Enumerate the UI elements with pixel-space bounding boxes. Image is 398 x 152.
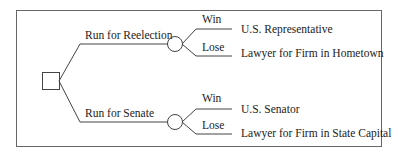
- outcome-event-win: Win: [202, 13, 222, 25]
- outcome-result-lose: Lawyer for Firm in Hometown: [241, 47, 384, 60]
- chance-node-circle: [168, 115, 183, 130]
- decision-tree-diagram: Run for Reelection Win Lose U.S. Represe…: [0, 0, 398, 152]
- outcome-event-lose: Lose: [202, 119, 224, 131]
- branch-run-for-senate: Run for Senate Win Lose U.S. Senator Law…: [59, 81, 391, 140]
- outcome-result-win: U.S. Representative: [241, 23, 333, 36]
- outcome-result-win: U.S. Senator: [241, 103, 300, 115]
- outcome-event-win: Win: [202, 92, 222, 104]
- outcome-event-lose: Lose: [202, 41, 224, 53]
- outcome-result-lose: Lawyer for Firm in State Capital: [241, 127, 391, 140]
- decision-node-square: [43, 73, 60, 90]
- branch-label: Run for Senate: [85, 107, 154, 119]
- chance-node-circle: [168, 37, 183, 52]
- branch-run-for-reelection: Run for Reelection Win Lose U.S. Represe…: [59, 13, 384, 81]
- branch-line: [59, 44, 168, 81]
- branch-label: Run for Reelection: [85, 29, 173, 41]
